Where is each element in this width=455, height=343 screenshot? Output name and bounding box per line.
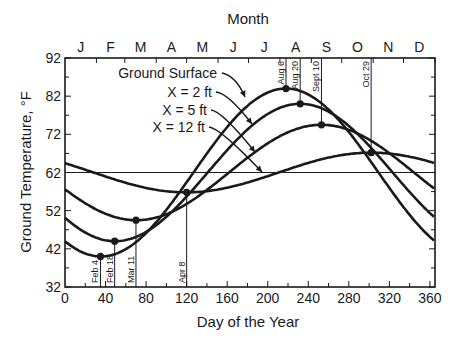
y-tick-labels: 32425262728292 [45, 50, 61, 295]
y-tick-label: 32 [45, 279, 61, 295]
x-tick-label: 280 [337, 290, 361, 306]
x-tick-label: 200 [256, 290, 280, 306]
month-label: M [197, 39, 209, 55]
x-tick-label: 160 [216, 290, 240, 306]
min-event-label: Feb 4 [90, 260, 100, 283]
max-dot [368, 149, 375, 156]
min-dot [111, 238, 118, 245]
y-tick-label: 92 [45, 50, 61, 66]
month-label: J [230, 39, 237, 55]
x-tick-label: 320 [378, 290, 402, 306]
top-axis-title-text: Month [227, 10, 269, 27]
y-tick-label: 52 [45, 203, 61, 219]
min-event-label: Mar 11 [126, 256, 136, 283]
y-tick-label: 62 [45, 165, 61, 181]
max-event-label: Aug 20 [290, 61, 300, 90]
month-label: M [135, 39, 147, 55]
min-dot [183, 189, 190, 196]
month-label: S [322, 39, 331, 55]
x-tick-label: 40 [98, 290, 114, 306]
max-event-label: Aug 6 [276, 61, 286, 85]
top-axis-title: Month [227, 10, 269, 27]
min-event-label: Apr 8 [177, 261, 187, 283]
month-label: O [352, 39, 363, 55]
legend-labels: Ground SurfaceX = 2 ftX = 5 ftX = 12 ft [118, 65, 262, 172]
month-label: F [106, 39, 115, 55]
legend-label: X = 5 ft [162, 102, 207, 118]
legend-label: X = 12 ft [152, 119, 205, 135]
month-label: N [383, 39, 393, 55]
x-tick-label: 120 [175, 290, 199, 306]
legend-label: Ground Surface [118, 65, 217, 81]
min-dot [132, 217, 139, 224]
y-axis-label: Ground Temperature, °F [17, 91, 34, 253]
x-tick-label: 80 [138, 290, 154, 306]
min-event-label: Feb 18 [105, 255, 115, 283]
month-labels: JFMAMJJASOND [77, 39, 424, 55]
max-dot [318, 121, 325, 128]
max-dot [282, 85, 289, 92]
max-event-label: Oct 29 [361, 61, 371, 88]
x-tick-label: 360 [418, 290, 442, 306]
y-tick-label: 72 [45, 126, 61, 142]
x-axis-label: Day of the Year [197, 313, 300, 330]
max-dot [297, 100, 304, 107]
x-tick-label: 0 [61, 290, 69, 306]
y-tick-label: 42 [45, 241, 61, 257]
month-label: J [261, 39, 268, 55]
month-label: A [167, 39, 177, 55]
x-tick-labels: 04080120160200240280320360 [61, 290, 442, 306]
y-tick-label: 82 [45, 88, 61, 104]
x-tick-label: 240 [297, 290, 321, 306]
min-dot [97, 253, 104, 260]
month-label: J [77, 39, 84, 55]
legend-label: X = 2 ft [167, 84, 212, 100]
month-label: A [291, 39, 301, 55]
ground-temperature-chart: Month JFMAMJJASOND Feb 4Aug 6Feb 18Aug 2… [0, 0, 455, 343]
max-event-label: Sept 10 [311, 61, 321, 92]
month-label: D [414, 39, 424, 55]
